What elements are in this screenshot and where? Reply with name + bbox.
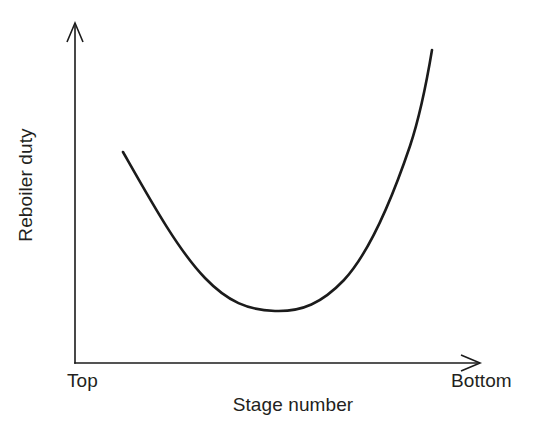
x-axis-title: Stage number <box>0 395 548 414</box>
reboiler-duty-curve <box>123 50 432 311</box>
y-axis-title: Reboiler duty <box>14 110 36 260</box>
x-axis-start-label: Top <box>67 371 98 390</box>
chart-figure: Reboiler duty Top Bottom Stage number <box>0 0 548 437</box>
y-axis-title-text: Reboiler duty <box>16 128 35 241</box>
x-axis-end-label: Bottom <box>451 371 512 390</box>
x-axis-title-text: Stage number <box>233 395 354 414</box>
